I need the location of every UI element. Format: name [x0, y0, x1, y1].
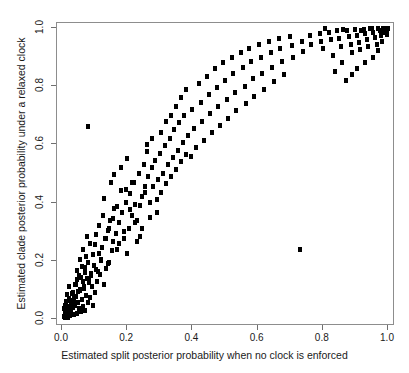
data-point [124, 187, 128, 192]
data-point [137, 171, 141, 176]
data-point [241, 65, 245, 70]
data-point [111, 216, 115, 221]
x-axis-tick [257, 325, 258, 330]
data-point [120, 210, 124, 215]
data-point [247, 46, 251, 51]
data-point [97, 251, 101, 256]
data-point [128, 207, 132, 212]
data-point [93, 290, 97, 295]
data-point [83, 308, 87, 313]
y-axis-tick [51, 27, 56, 28]
data-point [359, 28, 363, 33]
data-point [104, 236, 108, 241]
data-point [75, 268, 79, 273]
data-point [375, 42, 379, 47]
data-point [148, 200, 152, 205]
y-axis-tick [51, 85, 56, 86]
data-point [140, 226, 144, 231]
x-axis-tick-label: 0.6 [250, 333, 264, 343]
data-point [82, 284, 86, 289]
data-point [133, 202, 137, 207]
data-point [202, 138, 206, 143]
data-point [168, 136, 172, 141]
data-point [115, 247, 119, 252]
data-point [86, 300, 90, 305]
data-point [323, 26, 327, 31]
data-point [150, 165, 154, 170]
data-point [349, 42, 353, 47]
data-point [278, 46, 282, 51]
data-point [376, 48, 380, 53]
x-axis-tick [191, 325, 192, 330]
data-point [73, 282, 77, 287]
data-point [111, 239, 115, 244]
data-point [99, 257, 103, 262]
x-axis-tick [387, 325, 388, 330]
data-point [327, 30, 331, 35]
data-point [308, 33, 312, 38]
data-point [161, 171, 165, 176]
data-point [135, 239, 139, 244]
data-point [249, 59, 253, 64]
data-point [171, 155, 175, 160]
data-point [84, 254, 88, 259]
data-point [87, 278, 91, 283]
x-axis-tick [61, 325, 62, 330]
data-point [243, 84, 247, 89]
data-point [190, 107, 194, 112]
data-point [85, 234, 89, 239]
data-point [182, 113, 186, 118]
data-point [119, 165, 123, 170]
data-point [174, 167, 178, 172]
data-point [353, 27, 357, 32]
y-axis-tick-label: 0.0 [35, 311, 45, 325]
data-point [215, 85, 219, 90]
data-point [189, 154, 193, 159]
data-point [94, 232, 98, 237]
data-point [83, 265, 87, 270]
data-point [272, 79, 276, 84]
data-point [371, 55, 375, 60]
data-point [125, 251, 129, 256]
data-point [309, 42, 313, 47]
data-point [345, 28, 349, 33]
data-point [155, 197, 159, 202]
data-point [146, 174, 150, 179]
data-point [194, 145, 198, 150]
data-point [355, 33, 359, 38]
data-point [80, 297, 84, 302]
data-point [270, 65, 274, 70]
data-point [358, 47, 362, 52]
data-point [127, 226, 131, 231]
data-point [138, 203, 142, 208]
data-point [380, 39, 384, 44]
data-point [86, 124, 90, 129]
data-point [251, 76, 255, 81]
data-point [179, 159, 183, 164]
data-point [184, 87, 188, 92]
data-point [365, 37, 369, 42]
data-point [319, 39, 323, 44]
data-point [344, 78, 348, 83]
y-axis-tick-label: 1.0 [35, 20, 45, 34]
x-axis-tick [322, 325, 323, 330]
data-point [290, 43, 294, 48]
data-point [339, 44, 343, 49]
data-point [267, 39, 271, 44]
data-point [363, 31, 367, 36]
data-point [177, 120, 181, 125]
data-point [143, 184, 147, 189]
data-point [373, 35, 377, 40]
data-point [76, 289, 80, 294]
y-axis-tick [51, 202, 56, 203]
data-point [117, 241, 121, 246]
data-point [106, 261, 110, 266]
data-point [79, 275, 83, 280]
data-point [158, 151, 162, 156]
data-point [200, 119, 204, 124]
data-point [239, 50, 243, 55]
data-point [385, 32, 389, 37]
data-point [207, 92, 211, 97]
data-point [101, 213, 105, 218]
data-point [133, 220, 137, 225]
